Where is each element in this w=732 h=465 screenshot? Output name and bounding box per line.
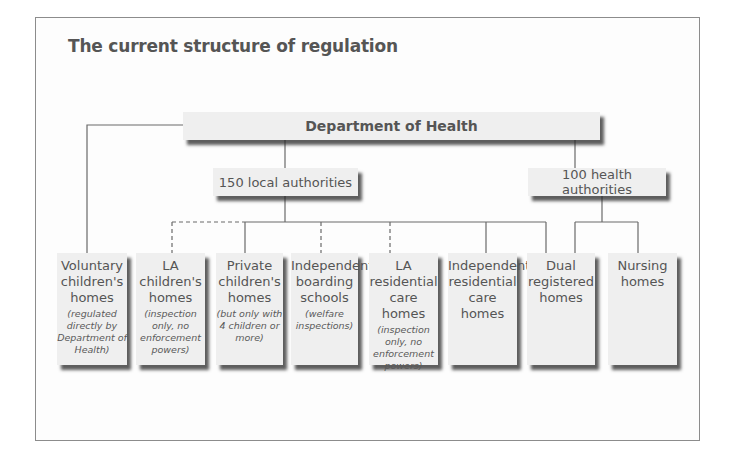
- node-nursing-homes: Nursing homes: [608, 253, 677, 365]
- node-note: (inspection only, no enforcement powers): [136, 308, 205, 356]
- connector-lines: [0, 0, 732, 465]
- node-health-authorities: 100 health authorities: [528, 168, 666, 196]
- node-note: (regulated directly by Department of Hea…: [57, 308, 127, 356]
- node-label: LA residential care homes: [369, 258, 438, 322]
- node-label: LA children's homes: [136, 258, 205, 306]
- node-label: Independent boarding schools: [291, 258, 358, 306]
- node-label: 100 health authorities: [528, 167, 666, 197]
- node-label: 150 local authorities: [219, 175, 352, 190]
- node-voluntary-childrens-homes: Voluntary children's homes (regulated di…: [57, 253, 127, 365]
- connector-dept-voluntary: [87, 125, 183, 253]
- node-la-childrens-homes: LA children's homes (inspection only, no…: [136, 253, 205, 365]
- node-independent-residential-care-homes: Independent residential care homes: [448, 253, 517, 365]
- node-note: (but only with 4 children or more): [216, 308, 283, 344]
- node-dual-registered-homes: Dual registered homes: [527, 253, 595, 365]
- node-note: (welfare inspections): [291, 308, 358, 332]
- node-label: Nursing homes: [608, 258, 677, 290]
- node-private-childrens-homes: Private children's homes (but only with …: [216, 253, 283, 365]
- node-note: (inspection only, no enforcement powers): [369, 324, 438, 372]
- node-department-of-health: Department of Health: [183, 112, 600, 140]
- node-local-authorities: 150 local authorities: [213, 168, 358, 196]
- node-label: Voluntary children's homes: [57, 258, 127, 306]
- node-label: Department of Health: [305, 118, 478, 134]
- node-label: Private children's homes: [216, 258, 283, 306]
- node-label: Independent residential care homes: [448, 258, 517, 322]
- node-la-residential-care-homes: LA residential care homes (inspection on…: [369, 253, 438, 365]
- node-label: Dual registered homes: [527, 258, 595, 306]
- node-independent-boarding-schools: Independent boarding schools (welfare in…: [291, 253, 358, 365]
